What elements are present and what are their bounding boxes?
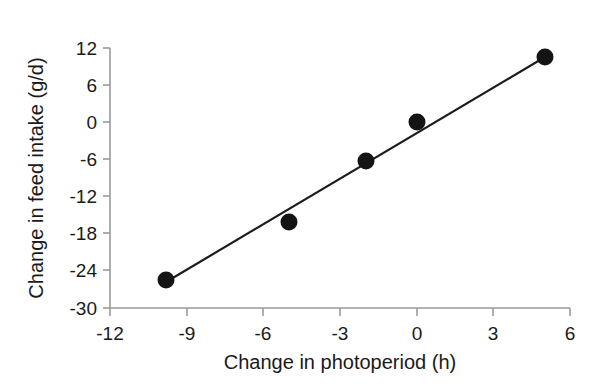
y-tick-label: -6: [80, 149, 97, 170]
data-point: [358, 153, 375, 170]
y-tick-label: -30: [70, 298, 97, 319]
chart-figure: 12 6 0 -6 -12 -18 -24 -30 -12 -9 -6 -3 0: [0, 0, 611, 392]
scatter-plot: 12 6 0 -6 -12 -18 -24 -30 -12 -9 -6 -3 0: [0, 0, 611, 392]
data-point: [537, 49, 554, 66]
data-point: [281, 214, 298, 231]
y-tick-label: 12: [76, 38, 97, 59]
y-axis-title: Change in feed intake (g/d): [25, 57, 47, 298]
x-tick-label: -12: [96, 323, 123, 344]
y-tick-label: -12: [70, 186, 97, 207]
y-tick-label: -24: [70, 260, 98, 281]
x-tick-label: 6: [565, 323, 576, 344]
data-point: [158, 272, 175, 289]
x-axis-title: Change in photoperiod (h): [224, 351, 456, 373]
data-point: [409, 114, 426, 131]
x-tick-label: -9: [179, 323, 196, 344]
y-tick-label: -18: [70, 223, 97, 244]
x-tick-label: -3: [332, 323, 349, 344]
y-tick-label: 0: [86, 112, 97, 133]
x-tick-label: 3: [488, 323, 499, 344]
x-tick-label: -6: [255, 323, 272, 344]
x-tick-label: 0: [412, 323, 423, 344]
y-tick-label: 6: [86, 75, 97, 96]
